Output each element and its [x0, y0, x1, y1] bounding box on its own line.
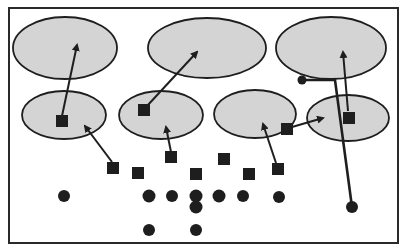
defender-4-square-icon — [132, 167, 144, 179]
offense-5-circle-icon — [190, 201, 203, 214]
defender-11-square-icon — [343, 112, 355, 124]
defender-1-square-icon — [56, 115, 68, 127]
offense-6-circle-icon — [213, 190, 226, 203]
deep-zone-middle — [148, 18, 266, 78]
defender-6-square-icon — [190, 168, 202, 180]
offense-11-circle-icon — [346, 201, 358, 213]
offense-7-circle-icon — [237, 190, 249, 202]
defender-2-square-icon — [138, 104, 150, 116]
defender-10-square-icon — [281, 123, 293, 135]
defender-3-square-icon — [107, 162, 119, 174]
offense-2-circle-icon — [143, 190, 156, 203]
short-zone-2 — [119, 91, 203, 139]
offense-9-circle-icon — [143, 224, 155, 236]
defender-5-square-icon — [165, 151, 177, 163]
offense-3-circle-icon — [166, 190, 178, 202]
diagram-canvas — [0, 0, 412, 252]
defender-7-square-icon — [218, 153, 230, 165]
defender-8-square-icon — [243, 168, 255, 180]
deep-zone-right — [276, 17, 386, 79]
offense-1-circle-icon — [58, 190, 70, 202]
offense-12-circle-icon — [298, 76, 307, 85]
offense-10-circle-icon — [190, 224, 202, 236]
play-diagram — [0, 0, 412, 252]
offense-8-circle-icon — [273, 191, 285, 203]
deep-zone-left — [13, 17, 117, 79]
defender-9-square-icon — [272, 163, 284, 175]
